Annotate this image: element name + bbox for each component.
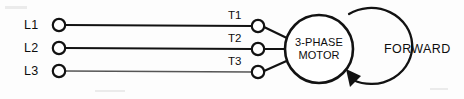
supply-label-group: L1 L2 L3 xyxy=(24,18,38,78)
bus-line-l3-t3 xyxy=(65,71,252,72)
motor-label-line1: 3-PHASE xyxy=(295,36,343,48)
rotation-direction-label: FORWARD xyxy=(384,42,451,56)
terminal-label-l3: L3 xyxy=(24,64,38,78)
rotation-arrowhead-icon xyxy=(346,69,361,87)
motor-label-line2: MOTOR xyxy=(298,49,339,61)
scan-artifact xyxy=(5,6,27,9)
motor-wiring-diagram: L1 L2 L3 T1 T2 T3 3-PHASE MOTOR xyxy=(0,0,464,99)
motor-terminal-group xyxy=(252,20,264,78)
terminal-label-l2: L2 xyxy=(24,41,38,55)
motor-label-group: T1 T2 T3 xyxy=(228,9,242,67)
terminal-node-t2[interactable] xyxy=(252,43,264,55)
bus-line-l1-t1 xyxy=(65,25,252,26)
scan-artifact xyxy=(430,88,448,90)
terminal-node-t3[interactable] xyxy=(252,66,264,78)
terminal-node-l2[interactable] xyxy=(53,42,65,54)
terminal-node-l1[interactable] xyxy=(53,19,65,31)
scan-artifact xyxy=(95,90,125,92)
terminal-node-l3[interactable] xyxy=(53,65,65,77)
terminal-label-t1: T1 xyxy=(228,9,242,21)
terminal-label-l1: L1 xyxy=(24,18,38,32)
terminal-label-t2: T2 xyxy=(228,32,242,44)
terminal-label-t3: T3 xyxy=(228,55,242,67)
bus-line-l2-t2 xyxy=(65,48,252,49)
terminal-node-t1[interactable] xyxy=(252,20,264,32)
diagram-canvas: L1 L2 L3 T1 T2 T3 3-PHASE MOTOR xyxy=(0,0,464,99)
supply-terminal-group xyxy=(53,19,65,77)
bus-line-group xyxy=(65,25,252,72)
